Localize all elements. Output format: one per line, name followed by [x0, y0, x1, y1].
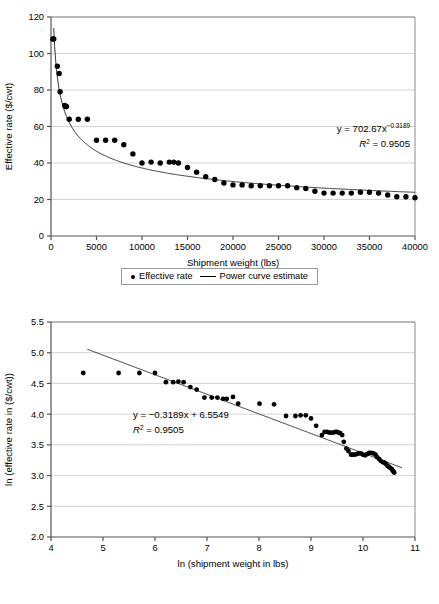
data-point [194, 387, 199, 392]
data-point [314, 423, 319, 428]
data-point [341, 439, 346, 444]
r-squared-annotation: R2 = 0.9505 [133, 424, 184, 436]
data-point [230, 182, 235, 187]
data-point [112, 137, 117, 142]
data-point [239, 182, 244, 187]
y-tick-label: 5.5 [31, 317, 44, 327]
data-point [209, 395, 214, 400]
y-tick-label: 2.0 [31, 532, 44, 542]
data-point [298, 413, 303, 418]
y-axis-title: Effective rate ($/cwt) [3, 83, 14, 170]
equation-annotation: y = 702.67x−0.3189 [337, 122, 411, 134]
data-point [185, 165, 190, 170]
x-tick-label: 11 [410, 543, 420, 553]
data-point [231, 395, 236, 400]
data-point [340, 190, 345, 195]
data-point [164, 380, 169, 385]
x-tick-label: 20000 [220, 242, 246, 252]
data-point [116, 371, 121, 376]
data-point [249, 183, 254, 188]
data-point [202, 395, 207, 400]
x-tick-label: 7 [204, 543, 209, 553]
x-tick-label: 10000 [129, 242, 155, 252]
data-point [94, 137, 99, 142]
data-point [176, 160, 181, 165]
data-point [56, 71, 61, 76]
scatter-series [81, 371, 397, 475]
data-point [57, 89, 62, 94]
data-point [130, 151, 135, 156]
effective-rate-vs-weight-chart: 0204060801001200500010000150002000025000… [0, 0, 439, 268]
data-point [171, 159, 176, 164]
scatter-series [50, 36, 418, 200]
data-point [412, 195, 417, 200]
r-squared-annotation: R2 = 0.9505 [359, 138, 410, 150]
data-point [221, 180, 226, 185]
data-point [358, 190, 363, 195]
data-point [276, 183, 281, 188]
data-point [403, 194, 408, 199]
y-tick-label: 2.5 [31, 502, 44, 512]
data-point [55, 64, 60, 69]
data-point [330, 190, 335, 195]
x-tick-label: 5000 [86, 242, 107, 252]
y-tick-label: 3.5 [31, 440, 44, 450]
y-tick-label: 4.0 [31, 410, 44, 420]
x-tick-label: 4 [48, 543, 53, 553]
data-point [103, 137, 108, 142]
legend-entry-power-curve: Power curve estimate [200, 272, 308, 281]
y-tick-label: 80 [34, 85, 44, 95]
y-axis-title: ln (effective rate in ($/cwt)) [3, 373, 14, 486]
x-tick-label: 10 [358, 543, 368, 553]
data-point [303, 186, 308, 191]
data-point [284, 414, 289, 419]
x-tick-label: 0 [48, 242, 53, 252]
data-point [51, 36, 56, 41]
x-tick-label: 30000 [311, 242, 337, 252]
y-tick-label: 100 [28, 49, 44, 59]
data-point [385, 192, 390, 197]
top-chart-legend: Effective rate Power curve estimate [0, 268, 439, 285]
y-tick-label: 40 [34, 158, 44, 168]
data-point [121, 142, 126, 147]
data-point [392, 470, 397, 475]
data-point [394, 194, 399, 199]
data-point [85, 117, 90, 122]
data-point [158, 160, 163, 165]
x-tick-label: 25000 [266, 242, 292, 252]
data-point [309, 416, 314, 421]
x-tick-label: 40000 [402, 242, 428, 252]
data-point [148, 159, 153, 164]
data-point [64, 104, 69, 109]
y-tick-label: 4.5 [31, 379, 44, 389]
data-point [76, 117, 81, 122]
data-point [303, 413, 308, 418]
x-tick-label: 8 [256, 543, 261, 553]
data-point [67, 117, 72, 122]
x-tick-label: 6 [152, 543, 157, 553]
data-point [293, 414, 298, 419]
x-tick-label: 15000 [175, 242, 201, 252]
dot-marker-icon [131, 275, 135, 279]
y-tick-label: 20 [34, 195, 44, 205]
legend-label: Power curve estimate [220, 272, 308, 281]
equation-annotation: y = −0.3189x + 6.5549 [133, 409, 229, 420]
x-tick-label: 35000 [357, 242, 383, 252]
y-tick-label: 0 [39, 231, 44, 241]
data-point [349, 190, 354, 195]
data-point [258, 183, 263, 188]
data-point [212, 177, 217, 182]
y-tick-label: 5.0 [31, 348, 44, 358]
data-point [171, 380, 176, 385]
data-point [194, 169, 199, 174]
ln-rate-vs-ln-weight-chart: 2.02.53.03.54.04.55.05.54567891011ln (sh… [0, 300, 439, 570]
power-curve-figure: 0204060801001200500010000150002000025000… [0, 0, 439, 300]
data-point [188, 385, 193, 390]
data-point [181, 380, 186, 385]
legend-entry-effective-rate: Effective rate [131, 272, 192, 281]
data-point [153, 371, 158, 376]
y-tick-label: 3.0 [31, 471, 44, 481]
x-axis-title: ln (shipment weight in lbs) [178, 558, 289, 569]
fit-curve [54, 28, 415, 192]
data-point [294, 185, 299, 190]
